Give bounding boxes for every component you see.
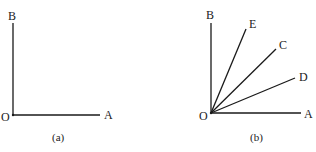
origin-point — [12, 114, 14, 116]
point-label-o: O — [1, 110, 10, 124]
point-label-c: C — [279, 38, 287, 52]
point-label-e: E — [249, 17, 256, 31]
figure-caption: (b) — [250, 131, 263, 144]
origin-point — [210, 112, 212, 114]
point-label-b: B — [206, 8, 214, 22]
figure-b: BECDAO(b) — [199, 8, 313, 144]
ray-oc — [211, 49, 276, 113]
angle-diagrams: BAO(a) BECDAO(b) — [0, 0, 316, 152]
point-label-o: O — [199, 109, 208, 123]
figure-caption: (a) — [52, 131, 65, 144]
point-label-a: A — [304, 107, 313, 121]
point-label-a: A — [104, 108, 113, 122]
point-label-b: B — [8, 9, 16, 23]
figure-a: BAO(a) — [1, 9, 113, 144]
point-label-d: D — [299, 70, 308, 84]
